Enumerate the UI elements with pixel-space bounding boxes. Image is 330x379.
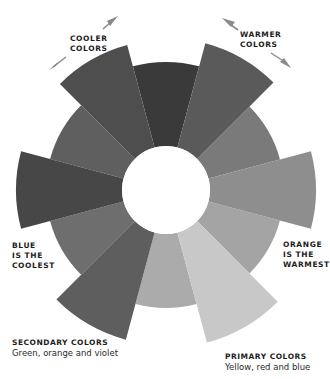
- blue-line-2: IS THE: [12, 251, 55, 261]
- orange-warmest-label: ORANGE IS THE WARMEST: [283, 240, 330, 270]
- cooler-line-1: COOLER: [70, 34, 108, 44]
- warmer-line-1: WARMER: [240, 30, 281, 40]
- secondary-colors-title: SECONDARY COLORS: [12, 338, 118, 348]
- orange-line-3: WARMEST: [283, 260, 330, 270]
- primary-colors-text: Yellow, red and blue: [225, 362, 310, 373]
- blue-line-3: COOLEST: [12, 261, 55, 271]
- secondary-colors-text: Green, orange and violet: [12, 348, 118, 359]
- primary-colors-title: PRIMARY COLORS: [225, 352, 310, 362]
- orange-line-2: IS THE: [283, 250, 330, 260]
- orange-line-1: ORANGE: [283, 240, 330, 250]
- warmer-line-2: COLORS: [240, 40, 281, 50]
- wheel-center-hole: [122, 146, 210, 234]
- blue-coolest-label: BLUE IS THE COOLEST: [12, 241, 55, 271]
- secondary-colors-caption: SECONDARY COLORS Green, orange and viole…: [12, 338, 118, 359]
- warmer-colors-label: WARMER COLORS: [240, 30, 281, 50]
- blue-line-1: BLUE: [12, 241, 55, 251]
- primary-colors-caption: PRIMARY COLORS Yellow, red and blue: [225, 352, 310, 373]
- cooler-line-2: COLORS: [70, 44, 108, 54]
- cooler-colors-label: COOLER COLORS: [70, 34, 108, 54]
